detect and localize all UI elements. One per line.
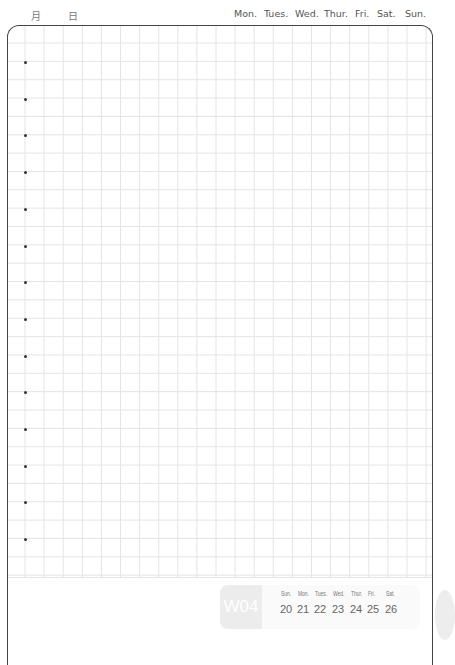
weekday-mon[interactable]: Mon. (234, 8, 257, 19)
week-day-date[interactable]: 20 (280, 603, 292, 615)
week-number: W04 (220, 585, 262, 629)
weekday-tue[interactable]: Tues. (264, 8, 288, 19)
week-day-date[interactable]: 22 (314, 603, 326, 615)
week-day-name: Tues. (315, 590, 327, 597)
weekday-sat[interactable]: Sat. (377, 8, 396, 19)
week-day-name: Sat. (386, 590, 395, 597)
side-tab[interactable] (435, 590, 455, 640)
week-day-name: Thur. (351, 590, 362, 597)
week-day-date[interactable]: 26 (385, 603, 397, 615)
footer-divider (8, 577, 432, 578)
week-day-date[interactable]: 21 (297, 603, 309, 615)
weekday-fri[interactable]: Fri. (355, 8, 369, 19)
week-day-date[interactable]: 25 (367, 603, 379, 615)
page-frame (7, 25, 433, 665)
week-day-name: Mon. (298, 590, 309, 597)
week-day-date[interactable]: 24 (350, 603, 362, 615)
week-day-name: Wed. (333, 590, 344, 597)
weekday-thu[interactable]: Thur. (324, 8, 348, 19)
week-day-name: Sun. (281, 590, 291, 597)
week-day-date[interactable]: 23 (332, 603, 344, 615)
weekday-sun[interactable]: Sun. (405, 8, 426, 19)
week-day-name: Fri. (368, 590, 375, 597)
weekday-wed[interactable]: Wed. (295, 8, 319, 19)
weekday-header: Mon. Tues. Wed. Thur. Fri. Sat. Sun. (0, 8, 442, 22)
